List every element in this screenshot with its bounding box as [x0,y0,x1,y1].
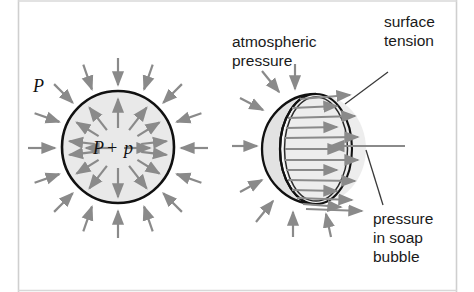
surface-tension-line-2: tension [384,32,434,49]
atmospheric-pressure-line-1: atmospheric [232,33,317,50]
pressure-in-soap-bubble-line-2: in soap [373,229,423,246]
inside-pressure-symbol-major: P [92,138,104,158]
surface-tension-line-1: surface [384,13,435,30]
pressure-in-soap-bubble-line-1: pressure [373,210,433,227]
inside-pressure-label: P + p [92,138,133,158]
left-diagram: P + p P [28,58,208,238]
inside-pressure-operator: + [106,138,118,158]
atmospheric-pressure-line-2: pressure [232,52,292,69]
outside-pressure-label: P [32,76,44,96]
figure-canvas: P + p P [0,0,474,292]
inside-pressure-symbol-minor: p [122,138,133,158]
pressure-in-soap-bubble-line-3: bubble [373,248,420,265]
